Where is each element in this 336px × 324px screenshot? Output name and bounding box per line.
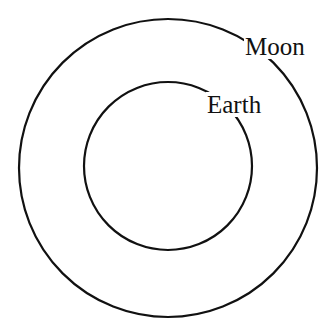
earth-label: Earth	[206, 92, 262, 117]
moon-label: Moon	[244, 34, 306, 59]
moon-orbit-circle	[19, 19, 317, 317]
